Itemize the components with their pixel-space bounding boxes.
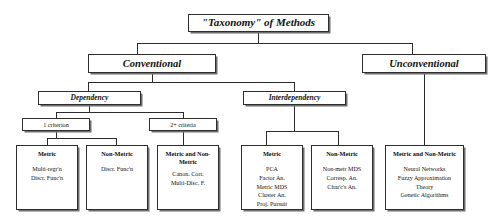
leaf-item: Fuzzy Approximation <box>388 174 461 183</box>
node-leaf-items: Neural Networks Fuzzy Approximation Theo… <box>388 165 461 200</box>
connector-level2-bus <box>137 43 412 44</box>
node-leaf-items: Non-metr MDS Corresp. An. Char'c's An. <box>314 165 370 191</box>
leaf-item: PCA <box>244 165 300 174</box>
leaf-item: Canon. Corr. <box>160 170 216 179</box>
taxonomy-diagram: "Taxonomy" of Methods Conventional Uncon… <box>0 0 499 218</box>
node-conventional-label: Conventional <box>123 58 181 69</box>
node-root-label: "Taxonomy" of Methods <box>202 17 315 29</box>
connector-one-criterion-stem <box>56 131 57 138</box>
node-leaf-items: Canon. Corr. Multi-Disc. F. <box>160 170 216 188</box>
connector-level3-bus <box>88 82 294 83</box>
node-leaf-metric-interdependency[interactable]: Metric PCA Factor An. Metric MDS Cluster… <box>241 145 303 210</box>
node-leaf-items: Multi-regr'n Discr. Func'n <box>19 165 75 183</box>
node-leaf-title: Metric <box>244 150 300 158</box>
leaf-item: Discr. Func'n <box>89 165 145 174</box>
connector-conventional-stem <box>152 73 153 82</box>
leaf-item: Multi-Disc. F. <box>160 179 216 188</box>
connector-to-leaf-metric-1 <box>47 138 48 145</box>
connector-root-stem <box>258 32 259 43</box>
connector-interdependency-stem <box>294 105 295 131</box>
leaf-item: Neural Networks <box>388 165 461 174</box>
leaf-item: Char'c's An. <box>314 183 370 192</box>
node-dependency[interactable]: Dependency <box>38 91 141 105</box>
leaf-item: Multi-regr'n <box>19 165 75 174</box>
leaf-item: Cluster An. <box>244 191 300 200</box>
node-leaf-title: Non-Metric <box>89 150 145 158</box>
connector-to-dependency <box>88 82 89 91</box>
connector-to-unconventional <box>412 43 413 54</box>
node-leaf-items: Discr. Func'n <box>89 165 145 174</box>
connector-leaf-bus-left <box>47 138 116 139</box>
node-leaf-title: Metric <box>19 150 75 158</box>
node-dependency-label: Dependency <box>71 94 109 102</box>
node-leaf-metric-dependency-1criterion[interactable]: Metric Multi-regr'n Discr. Func'n <box>16 145 78 210</box>
node-leaf-title: Non-Metric <box>314 150 370 158</box>
node-leaf-metric-and-nonmetric-unconventional[interactable]: Metric and Non-Metric Neural Networks Fu… <box>385 145 464 210</box>
connector-criteria-bus <box>56 112 183 113</box>
node-unconventional-label: Unconventional <box>389 58 458 69</box>
node-leaf-title: Metric and Non-Metric <box>160 150 216 166</box>
node-conventional[interactable]: Conventional <box>88 54 216 73</box>
leaf-item: Discr. Func'n <box>19 174 75 183</box>
node-leaf-nonmetric-dependency-1criterion[interactable]: Non-Metric Discr. Func'n <box>86 145 148 210</box>
leaf-item: Theory <box>388 183 461 192</box>
connector-dependency-stem <box>89 105 90 112</box>
connector-to-interdependency <box>294 82 295 91</box>
node-root[interactable]: "Taxonomy" of Methods <box>188 14 329 32</box>
node-two-criteria[interactable]: 2+ criteria <box>149 118 217 131</box>
leaf-item: Corresp. An. <box>314 174 370 183</box>
node-leaf-metric-and-nonmetric-2criteria[interactable]: Metric and Non-Metric Canon. Corr. Multi… <box>157 145 219 210</box>
leaf-item: Factor An. <box>244 174 300 183</box>
connector-to-conventional <box>137 43 138 54</box>
connector-two-criteria-stem <box>183 131 184 145</box>
connector-to-leaf-metric-2 <box>266 131 267 145</box>
leaf-item: Metric MDS <box>244 183 300 192</box>
connector-to-leaf-nonmetric-1 <box>116 138 117 145</box>
node-unconventional[interactable]: Unconventional <box>362 54 486 73</box>
node-leaf-title: Metric and Non-Metric <box>388 150 461 158</box>
connector-unconventional-stem <box>424 73 425 145</box>
connector-leaf-bus-right <box>266 131 338 132</box>
node-interdependency-label: Interdependency <box>269 94 321 102</box>
node-leaf-items: PCA Factor An. Metric MDS Cluster An. Pr… <box>244 165 300 209</box>
leaf-item: Proj. Pursuit <box>244 200 300 209</box>
connector-to-leaf-nonmetric-2 <box>338 131 339 145</box>
node-interdependency[interactable]: Interdependency <box>243 91 346 105</box>
node-leaf-nonmetric-interdependency[interactable]: Non-Metric Non-metr MDS Corresp. An. Cha… <box>311 145 373 210</box>
node-one-criterion-label: 1 criterion <box>43 121 69 128</box>
leaf-item: Non-metr MDS <box>314 165 370 174</box>
node-two-criteria-label: 2+ criteria <box>170 121 196 128</box>
leaf-item: Genetic Algorithms <box>388 191 461 200</box>
node-one-criterion[interactable]: 1 criterion <box>22 118 90 131</box>
